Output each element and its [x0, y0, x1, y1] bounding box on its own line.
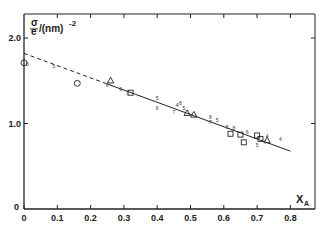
chart: 00.10.20.30.40.50.60.70.8 1.02.0 5566756… [0, 0, 325, 228]
x-axis-title: X [296, 193, 304, 205]
origin-y-label: 0 [14, 202, 19, 212]
triangle-marker [191, 111, 197, 117]
x-tick-label: 0.2 [84, 213, 97, 223]
x-axis-title-subscript: A [304, 200, 309, 207]
digit-marker: 6 [106, 82, 109, 88]
y-axis-title-denominator: e [31, 26, 37, 37]
x-tick-label: 0 [21, 213, 26, 223]
fit-line [24, 53, 290, 151]
y-axis-title-unit: /(nm) [39, 23, 63, 34]
digit-marker: 5 [156, 95, 159, 101]
x-tick-label: 0.3 [118, 213, 131, 223]
y-axis-ticks: 1.02.0 [8, 33, 315, 129]
digit-marker: 6 [156, 105, 159, 111]
x-tick-label: 0.7 [251, 213, 264, 223]
y-axis-title-exponent: -2 [69, 19, 77, 28]
y-tick-label: 1.0 [8, 119, 21, 129]
digit-marker: 7 [172, 109, 175, 115]
digit-marker: 5 [26, 61, 29, 67]
x-tick-label: 0.1 [51, 213, 64, 223]
digit-marker: 7 [126, 90, 129, 96]
circle-marker [74, 80, 80, 86]
square-marker [228, 131, 233, 136]
digit-marker: 4 [266, 133, 269, 139]
x-tick-label: 0.8 [284, 213, 297, 223]
x-tick-label: 0.6 [218, 213, 231, 223]
axis-labels: σ e /(nm) -2 X A 0 [14, 17, 309, 212]
digit-marker: 6 [119, 86, 122, 92]
digit-marker: 6 [246, 129, 249, 135]
x-axis-ticks: 00.10.20.30.40.50.60.70.8 [21, 14, 296, 223]
x-tick-label: 0.4 [151, 213, 164, 223]
digit-marker: 7 [209, 119, 212, 125]
digit-marker: 5 [53, 63, 56, 69]
fit-line-extrapolated [24, 53, 107, 84]
y-tick-label: 2.0 [8, 33, 21, 43]
digit-marker: 5 [226, 124, 229, 130]
digit-marker: 5 [182, 105, 185, 111]
square-marker [255, 133, 260, 138]
digit-marker: 8 [232, 125, 235, 131]
x-tick-label: 0.5 [184, 213, 197, 223]
square-marker [241, 140, 246, 145]
digit-marker: 5 [256, 142, 259, 148]
data-points: 55667564857875586544 [21, 60, 282, 148]
digit-marker: 4 [279, 136, 282, 142]
digit-marker: 5 [216, 117, 219, 123]
plot-frame [24, 14, 315, 209]
